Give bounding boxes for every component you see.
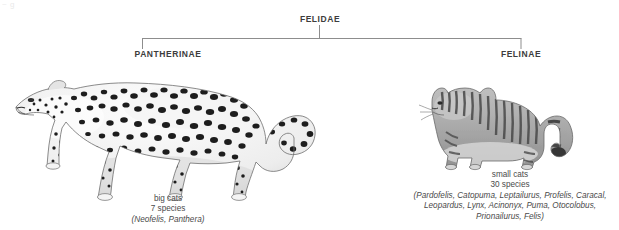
node-label-felinae: FELINAE <box>501 49 541 59</box>
caption-genera-small-line-2: Leopardus, Lynx, Acinonyx, Puma, Otocolo… <box>414 201 607 211</box>
wildcat-illustration <box>418 72 593 172</box>
caption-felinae: small cats 30 species (Pardofelis, Catop… <box>414 170 607 222</box>
caption-species-count-big: 7 species <box>132 204 205 214</box>
caption-common-name-small: small cats <box>414 170 607 180</box>
felidae-cladogram-figure: ~ g FELIDAE PANTHERINAE FELINAE <box>0 0 619 230</box>
caption-genera-small-line-1: (Pardofelis, Catopuma, Leptailurus, Prof… <box>414 191 607 201</box>
scan-artifact: ~ g <box>2 0 36 11</box>
node-label-pantherinae: PANTHERINAE <box>135 49 202 59</box>
wildcat-eye <box>437 101 442 104</box>
caption-species-count-small: 30 species <box>414 180 607 190</box>
leopard-eye <box>28 98 34 102</box>
node-label-felidae: FELIDAE <box>300 14 340 24</box>
caption-pantherinae: big cats 7 species (Neofelis, Panthera) <box>132 194 205 225</box>
leopard-illustration <box>4 62 334 202</box>
wildcat-paws <box>446 164 533 169</box>
caption-genera-small-line-3: Prionailurus, Felis) <box>414 212 607 222</box>
caption-genera-big: (Neofelis, Panthera) <box>132 215 205 225</box>
caption-common-name-big: big cats <box>132 194 205 204</box>
wildcat-whiskers <box>419 105 433 120</box>
